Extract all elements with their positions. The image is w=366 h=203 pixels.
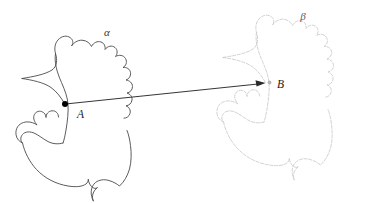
point-a-label: A — [76, 108, 85, 120]
region-beta-label: β — [299, 10, 306, 22]
point-a-dot — [62, 101, 68, 107]
point-b-label: B — [277, 78, 284, 90]
region-alpha-upper-outline — [22, 36, 133, 118]
translation-arrow-head — [256, 80, 266, 86]
region-beta-bottom-sweep-outline — [224, 110, 333, 181]
diagram-svg: α β A B — [0, 0, 366, 203]
region-alpha-group — [16, 36, 133, 201]
region-beta-group — [217, 15, 334, 180]
region-beta-lower-left-lobe-outline — [217, 90, 264, 123]
region-alpha-label: α — [104, 26, 110, 38]
figure-canvas: α β A B — [0, 0, 366, 203]
region-beta-left-cusp-outline — [223, 58, 266, 83]
region-alpha-lower-left-lobe-outline — [16, 111, 63, 144]
region-alpha-bottom-sweep-outline — [23, 131, 132, 202]
point-b-dot — [268, 81, 272, 85]
region-alpha-left-cusp-outline — [22, 79, 65, 104]
